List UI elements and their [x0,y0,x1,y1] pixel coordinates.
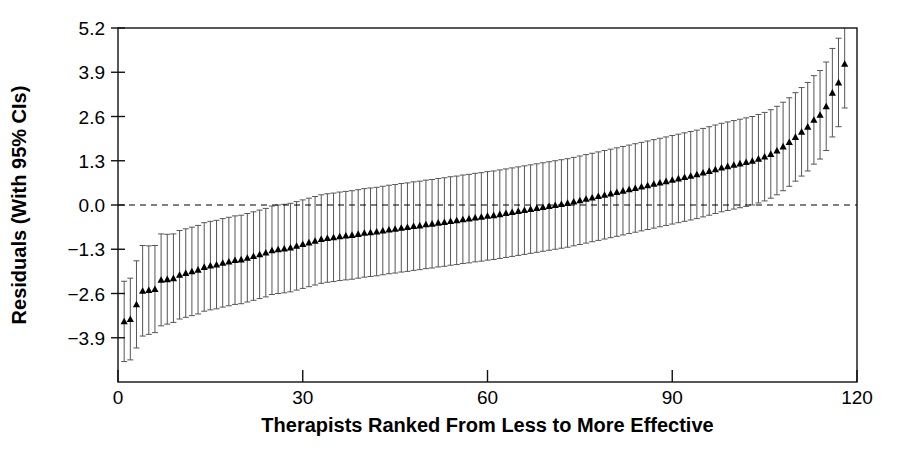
data-point-marker [361,229,368,236]
data-point-marker [256,251,263,258]
data-point-marker [219,259,226,266]
data-point-marker [268,247,275,254]
y-tick-label: 1.3 [79,151,105,172]
data-point-marker [324,234,331,241]
data-point-marker [447,217,454,224]
data-point-marker [527,205,534,212]
data-point-marker [773,147,780,154]
data-point-marker [706,167,713,174]
data-point-marker [336,233,343,240]
data-point-marker [207,262,214,269]
data-point-marker [441,218,448,225]
data-point-marker [638,183,645,190]
data-point-marker [164,276,171,283]
data-point-marker [225,258,232,265]
data-point-marker [484,212,491,219]
data-point-marker [281,245,288,252]
data-point-marker [496,211,503,218]
data-point-marker [693,171,700,178]
x-tick-label: 0 [113,387,124,408]
data-point-marker [780,143,787,150]
data-point-marker [194,266,201,273]
data-point-marker [416,222,423,229]
y-tick-label: 0.0 [79,195,105,216]
data-point-marker [589,194,596,201]
data-point-marker [798,128,805,135]
data-point-marker [656,179,663,186]
data-point-marker [373,228,380,235]
y-tick-label: 2.6 [79,107,105,128]
y-tick-label: −2.6 [67,284,105,305]
data-point-marker [570,198,577,205]
data-point-marker [311,237,318,244]
data-point-marker [385,226,392,233]
data-point-marker [687,172,694,179]
data-point-marker [158,276,165,283]
data-point-marker [170,275,177,282]
data-point-marker [127,315,134,322]
data-point-marker [521,207,528,214]
data-point-marker [761,153,768,160]
data-point-marker [355,230,362,237]
data-point-marker [502,210,509,217]
data-point-marker [558,200,565,207]
data-point-marker [829,89,836,96]
data-point-marker [675,175,682,182]
data-point-marker [755,155,762,162]
data-point-marker [287,244,294,251]
data-point-marker [841,60,848,67]
data-point-marker [121,318,128,325]
data-point-marker [305,239,312,246]
data-point-marker [823,103,830,110]
data-point-marker [681,173,688,180]
data-point-marker [244,254,251,261]
x-tick-label: 120 [841,387,873,408]
data-point-marker [133,301,140,308]
data-point-marker [730,161,737,168]
data-point-marker [410,223,417,230]
data-point-marker [662,178,669,185]
data-point-marker [626,186,633,193]
data-point-marker [736,160,743,167]
y-tick-label: 3.9 [79,62,105,83]
x-tick-label: 30 [292,387,313,408]
data-point-marker [379,227,386,234]
errorbar-group [121,28,848,362]
data-point-marker [465,215,472,222]
data-point-marker [835,79,842,86]
data-point-marker [201,263,208,270]
x-tick-label: 60 [477,387,498,408]
data-point-marker [453,217,460,224]
data-point-marker [515,208,522,215]
y-tick-label: 5.2 [79,18,105,39]
data-point-marker [422,221,429,228]
marker-group [121,60,849,324]
data-point-marker [595,193,602,200]
data-point-marker [293,242,300,249]
data-point-marker [404,224,411,231]
data-point-marker [299,241,306,248]
data-point-marker [564,199,571,206]
data-point-marker [176,271,183,278]
data-point-marker [601,191,608,198]
data-point-marker [318,235,325,242]
data-point-marker [188,268,195,275]
data-point-marker [712,166,719,173]
data-point-marker [398,224,405,231]
data-point-marker [786,138,793,145]
data-point-marker [275,246,282,253]
data-point-marker [250,252,257,259]
data-point-marker [607,190,614,197]
data-point-marker [231,257,238,264]
data-point-marker [699,169,706,176]
data-point-marker [151,285,158,292]
data-point-marker [724,163,731,170]
data-point-marker [576,197,583,204]
residual-plot-svg: −3.9−2.6−1.30.01.32.63.95.20306090120The… [0,0,901,467]
data-point-marker [342,232,349,239]
data-point-marker [632,184,639,191]
data-point-marker [139,287,146,294]
data-point-marker [330,234,337,241]
data-point-marker [743,159,750,166]
data-point-marker [392,225,399,232]
